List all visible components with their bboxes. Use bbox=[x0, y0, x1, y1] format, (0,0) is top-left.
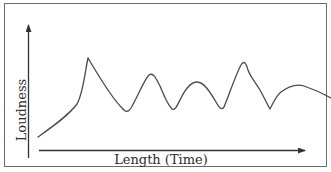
y-axis-label: Loudness bbox=[14, 75, 30, 145]
x-axis-label: Length (Time) bbox=[96, 151, 226, 169]
loudness-curve bbox=[38, 58, 331, 137]
loudness-diagram bbox=[0, 0, 331, 172]
